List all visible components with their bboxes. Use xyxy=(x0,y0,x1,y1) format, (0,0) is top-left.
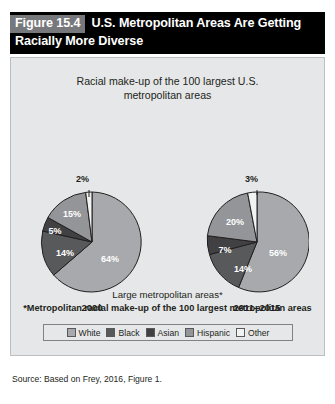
legend-item-white: White xyxy=(67,328,101,338)
pie-2000-label-black: 14% xyxy=(56,248,74,258)
figure-number-badge: Figure 15.4 xyxy=(10,15,85,33)
chart-panel: Racial make-up of the 100 largest U.S. m… xyxy=(10,57,325,356)
figure-title-line-2: Racially More Diverse xyxy=(10,33,321,50)
legend-swatch-black-icon xyxy=(106,328,115,337)
chart-heading-line-1: Racial make-up of the 100 largest U.S. xyxy=(77,75,259,87)
pie-chart-2011-2015: 3% 56% 14% 7% 20% 2011–2015 xyxy=(205,190,309,294)
pie-2000-label-hispanic: 15% xyxy=(63,209,81,219)
pie-chart-2000: 2% 64% 14% 5% 15% 2000 xyxy=(40,190,144,294)
legend-label-asian: Asian xyxy=(158,328,180,338)
chart-legend: White Black Asian Hispanic Other xyxy=(43,324,293,341)
pie-2011-2015-label-black: 14% xyxy=(234,264,252,274)
legend-swatch-other-icon xyxy=(236,328,245,337)
figure-title-line-1: U.S. Metropolitan Areas Are Getting xyxy=(91,16,301,30)
legend-label-other: Other xyxy=(248,328,270,338)
legend-swatch-white-icon xyxy=(67,328,76,337)
pie-2000-label-white: 64% xyxy=(101,254,119,264)
legend-item-black: Black xyxy=(106,328,139,338)
pie-2011-2015-label-hispanic: 20% xyxy=(226,217,244,227)
legend-swatch-hispanic-icon xyxy=(185,328,194,337)
pie-2000-other-callout: 2% xyxy=(76,174,89,184)
legend-item-other: Other xyxy=(236,328,270,338)
title-line-1-wrap: Figure 15.4U.S. Metropolitan Areas Are G… xyxy=(10,15,321,33)
pie-2011-2015-label-asian: 7% xyxy=(218,245,231,255)
chart-heading: Racial make-up of the 100 largest U.S. m… xyxy=(11,74,324,102)
pie-2000-svg: 64% 14% 5% 15% xyxy=(40,190,144,294)
source-note: Source: Based on Frey, 2016, Figure 1. xyxy=(12,374,162,384)
figure-container: Figure 15.4U.S. Metropolitan Areas Are G… xyxy=(0,0,335,404)
legend-swatch-asian-icon xyxy=(146,328,155,337)
legend-label-black: Black xyxy=(118,328,139,338)
pie-2000-label-asian: 5% xyxy=(48,226,61,236)
legend-label-white: White xyxy=(79,328,101,338)
pie-2011-2015-label-white: 56% xyxy=(269,248,287,258)
caption-footnote: *Metropolitan racial make-up of the 100 … xyxy=(11,303,324,313)
pie-2011-2015-svg: 56% 14% 7% 20% xyxy=(205,190,309,294)
legend-item-asian: Asian xyxy=(146,328,180,338)
figure-title-banner: Figure 15.4U.S. Metropolitan Areas Are G… xyxy=(10,12,325,54)
pie-2011-2015-other-callout: 3% xyxy=(245,174,258,184)
chart-heading-line-2: metropolitan areas xyxy=(124,89,212,101)
caption-large-metro-areas: Large metropolitan areas* xyxy=(11,289,324,300)
legend-item-hispanic: Hispanic xyxy=(185,328,230,338)
legend-label-hispanic: Hispanic xyxy=(197,328,230,338)
